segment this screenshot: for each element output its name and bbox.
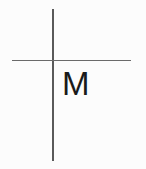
horizontal-axis-line (12, 60, 131, 62)
vertical-axis-line (52, 9, 54, 161)
quadrant-letter-label: M (62, 67, 90, 100)
diagram-canvas: M (0, 0, 146, 169)
